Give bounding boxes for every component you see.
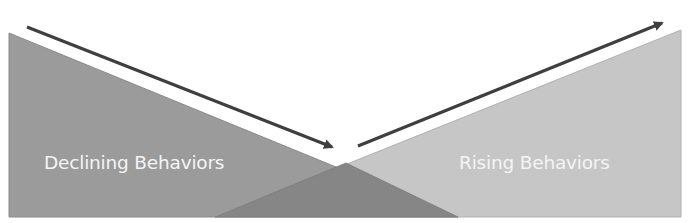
crossing-triangles-diagram [0, 0, 688, 223]
declining-behaviors-label: Declining Behaviors [44, 154, 224, 173]
rising-behaviors-label: Rising Behaviors [459, 154, 610, 173]
